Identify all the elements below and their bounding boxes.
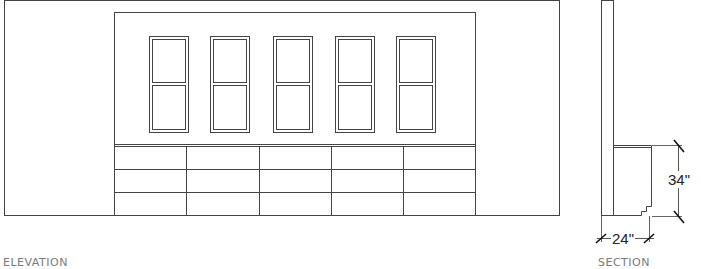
elevation-wall-outline [5,1,560,216]
section-wall [602,1,614,216]
drawer-cabinets [114,145,475,217]
elevation-inner-panel [115,13,476,216]
elevation-label: ELEVATION [3,256,68,269]
dimension-depth-label: 24" [611,230,635,247]
drawing-canvas [0,0,701,269]
window-2 [211,37,250,133]
windows [150,37,436,133]
section-cabinet [613,146,652,216]
section-label: SECTION [598,256,650,269]
window-5 [397,37,436,133]
window-1 [150,37,189,133]
dimension-height-label: 34" [667,171,691,188]
window-3 [274,37,313,133]
section-drawing [596,1,684,244]
window-4 [336,37,375,133]
